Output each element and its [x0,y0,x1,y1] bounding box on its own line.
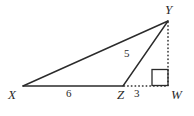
geometry-figure: X Y Z W 6 3 5 [0,0,194,116]
length-label-zy: 5 [124,48,130,59]
figure-canvas [0,0,194,116]
length-label-zw: 3 [134,88,140,99]
vertex-label-w: W [171,88,182,101]
vertex-label-y: Y [165,3,172,16]
right-angle-square-icon [152,70,168,86]
vertex-label-x: X [8,88,16,101]
length-label-xz: 6 [66,88,72,99]
vertex-label-z: Z [117,88,124,101]
